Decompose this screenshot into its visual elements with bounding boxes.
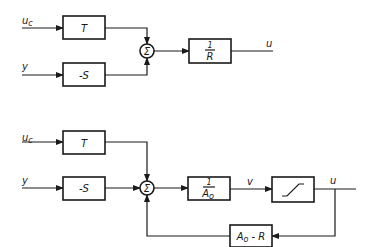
input-uc-label: uc bbox=[22, 15, 33, 28]
input-uc-label: uc bbox=[22, 132, 33, 145]
T-to-sum-arrow bbox=[105, 28, 147, 44]
T-to-sum-arrow bbox=[105, 142, 147, 181]
block-T-label: T bbox=[81, 23, 88, 34]
feedback-to-sum-arrow bbox=[147, 195, 230, 236]
signal-v-label: v bbox=[247, 176, 254, 187]
block-T-label: T bbox=[81, 138, 88, 149]
input-y-label: y bbox=[21, 61, 29, 72]
block-A-numerator: 1 bbox=[206, 178, 211, 187]
bottom-diagram: uc T y -S Σ 1 Ao v u Ao - R bbox=[21, 131, 356, 247]
sum-symbol: Σ bbox=[144, 46, 151, 57]
block-R-numerator: 1 bbox=[207, 41, 212, 50]
block-R-denominator: R bbox=[207, 51, 214, 62]
S-to-sum-arrow bbox=[105, 58, 147, 75]
output-u-label: u bbox=[330, 175, 336, 186]
input-y-label: y bbox=[21, 175, 29, 186]
sum-symbol: Σ bbox=[144, 183, 151, 194]
block-diagram: uc T y -S Σ 1 R u uc T y -S Σ bbox=[0, 0, 376, 247]
block-minus-S-label: -S bbox=[79, 70, 90, 81]
block-minus-S-label: -S bbox=[79, 183, 90, 194]
top-diagram: uc T y -S Σ 1 R u bbox=[21, 15, 273, 86]
output-u-label: u bbox=[266, 38, 272, 49]
